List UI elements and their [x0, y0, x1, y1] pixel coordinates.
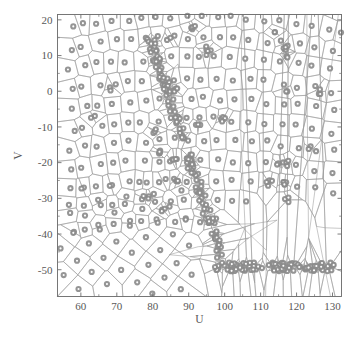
data-point-core [283, 84, 285, 86]
data-point-core [265, 161, 267, 163]
data-point-core [150, 51, 152, 53]
data-point-core [84, 215, 86, 217]
data-point-core [205, 54, 207, 56]
data-point-core [224, 117, 226, 119]
data-point-core [231, 179, 233, 181]
data-point-core [167, 104, 169, 106]
data-point-core [208, 220, 210, 222]
data-point-core [110, 61, 112, 63]
data-point-core [262, 79, 264, 81]
data-point-core [175, 158, 177, 160]
data-point-core [216, 78, 218, 80]
data-point-core [80, 46, 82, 48]
data-point-core [234, 139, 236, 141]
data-point-core [315, 105, 317, 107]
data-point-core [332, 192, 334, 194]
data-point-core [200, 185, 202, 187]
data-point-core [111, 204, 113, 206]
data-point-core [311, 128, 313, 130]
data-point-core [68, 150, 70, 152]
data-point-core [96, 105, 98, 107]
data-point-core [80, 167, 82, 169]
data-point-core [295, 123, 297, 125]
data-point-core [77, 288, 79, 290]
data-point-core [127, 140, 129, 142]
data-point-core [173, 35, 175, 37]
data-point-core [274, 31, 276, 33]
data-point-core [232, 161, 234, 163]
y-axis-label: V [12, 151, 24, 160]
data-point-core [180, 288, 182, 290]
data-point-core [124, 203, 126, 205]
data-point-core [141, 208, 143, 210]
data-point-core [205, 204, 207, 206]
data-point-core [190, 98, 192, 100]
data-point-core [313, 269, 315, 271]
x-tick-label: 90 [183, 300, 195, 312]
data-point-core [331, 172, 333, 174]
data-point-core [282, 265, 284, 267]
data-point-core [99, 228, 101, 230]
data-point-core [285, 90, 287, 92]
data-point-core [116, 38, 118, 40]
data-point-core [158, 181, 160, 183]
data-point-core [186, 77, 188, 79]
data-point-core [82, 22, 84, 24]
x-tick-label: 70 [111, 300, 123, 312]
data-point-core [145, 142, 147, 144]
data-point-core [155, 61, 157, 63]
data-point-core [218, 244, 220, 246]
data-point-core [129, 225, 131, 227]
data-point-core [120, 269, 122, 271]
data-point-core [81, 127, 83, 129]
data-point-core [125, 196, 127, 198]
data-point-core [112, 162, 114, 164]
data-point-core [271, 180, 273, 182]
data-point-core [201, 15, 203, 17]
data-point-core [174, 111, 176, 113]
y-tick-label: -30 [38, 192, 53, 204]
data-point-core [110, 20, 112, 22]
data-point-core [72, 25, 74, 27]
data-point-core [163, 277, 165, 279]
data-point-core [113, 211, 115, 213]
data-point-core [186, 55, 188, 57]
data-point-core [84, 229, 86, 231]
y-tick-label: -40 [38, 228, 53, 240]
data-point-core [191, 154, 193, 156]
data-point-core [326, 270, 328, 272]
data-point-core [172, 233, 174, 235]
y-tick-label: -10 [38, 121, 53, 133]
data-point-core [231, 263, 233, 265]
data-point-core [174, 117, 176, 119]
data-point-core [263, 59, 265, 61]
data-point-core [157, 35, 159, 37]
data-point-core [190, 172, 192, 174]
data-point-core [141, 80, 143, 82]
data-point-core [218, 239, 220, 241]
data-point-core [129, 101, 131, 103]
data-point-core [159, 249, 161, 251]
data-point-core [221, 120, 223, 122]
data-point-core [265, 103, 267, 105]
data-point-core [72, 88, 74, 90]
data-point-core [109, 89, 111, 91]
y-tick-label: -20 [38, 156, 53, 168]
data-point-core [245, 200, 247, 202]
data-point-core [273, 269, 275, 271]
data-point-core [313, 170, 315, 172]
data-point-core [83, 205, 85, 207]
data-point-core [250, 98, 252, 100]
data-point-core [202, 36, 204, 38]
data-point-core [212, 116, 214, 118]
data-point-core [205, 45, 207, 47]
data-point-core [195, 186, 197, 188]
data-point-core [139, 121, 141, 123]
data-point-core [315, 265, 317, 267]
data-point-core [186, 181, 188, 183]
data-point-core [179, 117, 181, 119]
data-point-core [217, 199, 219, 201]
data-point-core [69, 187, 71, 189]
data-point-core [177, 180, 179, 182]
data-point-core [161, 210, 163, 212]
